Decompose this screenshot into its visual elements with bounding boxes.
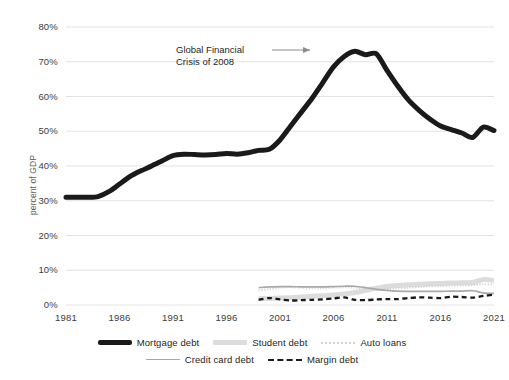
legend-swatch-thick-gray-icon [213,338,247,347]
annotation-arrow-icon [272,47,310,53]
gridlines [66,27,494,305]
legend-label: Margin debt [307,354,358,365]
legend-item-margin-debt[interactable]: Margin debt [268,354,358,365]
annotation-text-line2: Crisis of 2008 [176,56,234,68]
series-line-mortgage-debt [66,51,494,197]
legend-item-credit-card-debt[interactable]: Credit card debt [146,354,254,365]
legend-swatch-thin-gray-icon [146,355,180,364]
legend-row-2: Credit card debtMargin debt [0,351,504,368]
annotation-text-line1: Global Financial [176,44,244,56]
legend-label: Student debt [252,337,307,348]
legend-label: Mortgage debt [137,337,200,348]
legend-swatch-thick-black-icon [98,338,132,347]
series-paths [66,51,494,300]
legend-item-mortgage-debt[interactable]: Mortgage debt [98,337,200,348]
legend-swatch-dashed-icon [268,355,302,364]
legend-label: Auto loans [360,337,406,348]
legend-label: Credit card debt [185,354,254,365]
legend-swatch-dotted-icon [321,338,355,347]
legend-item-auto-loans[interactable]: Auto loans [321,337,406,348]
chart-legend: Mortgage debtStudent debtAuto loans Cred… [0,334,504,368]
legend-row-1: Mortgage debtStudent debtAuto loans [0,334,504,351]
legend-item-student-debt[interactable]: Student debt [213,337,307,348]
